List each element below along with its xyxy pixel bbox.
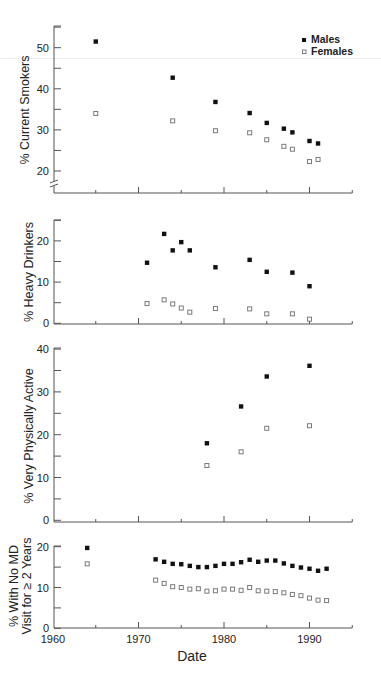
male-data-point	[290, 564, 294, 568]
y-axis-label: % Current Smokers	[18, 55, 32, 164]
female-data-point	[316, 598, 320, 602]
male-data-point	[196, 565, 200, 569]
male-data-point	[265, 558, 269, 562]
female-data-point	[179, 306, 183, 310]
female-data-point	[299, 594, 303, 598]
y-tick-label: 20	[37, 429, 49, 441]
male-data-point	[213, 564, 217, 568]
female-data-point	[325, 599, 329, 603]
male-data-point	[162, 560, 166, 564]
female-data-point	[213, 129, 217, 133]
male-data-point	[307, 139, 311, 143]
female-data-point	[282, 144, 286, 148]
female-data-point	[94, 111, 98, 115]
female-data-point	[171, 119, 175, 123]
legend-male-marker	[302, 38, 306, 42]
y-tick-label: 10	[37, 472, 49, 484]
y-axis-label-line1: % With No MD	[7, 545, 21, 627]
x-tick-label: 1960	[41, 633, 65, 645]
female-data-point	[171, 302, 175, 306]
female-data-point	[239, 588, 243, 592]
female-data-point	[265, 138, 269, 142]
male-data-point	[316, 569, 320, 573]
male-data-point	[230, 562, 234, 566]
male-data-point	[316, 141, 320, 145]
female-data-point	[154, 578, 158, 582]
female-data-point	[179, 586, 183, 590]
female-data-point	[256, 589, 260, 593]
female-data-point	[85, 562, 89, 566]
x-tick-label: 1980	[212, 633, 236, 645]
data-points	[85, 546, 329, 603]
male-data-point	[324, 567, 328, 571]
male-data-point	[239, 560, 243, 564]
female-data-point	[145, 302, 149, 306]
female-data-point	[290, 592, 294, 596]
male-data-point	[247, 111, 251, 115]
male-data-point	[256, 560, 260, 564]
male-data-point	[94, 39, 98, 43]
male-data-point	[265, 270, 269, 274]
male-data-point	[205, 441, 209, 445]
y-tick-label: 20	[37, 541, 49, 553]
male-data-point	[247, 558, 251, 562]
male-data-point	[307, 364, 311, 368]
legend: Males Females	[302, 33, 353, 57]
male-data-point	[153, 557, 157, 561]
male-data-point	[188, 248, 192, 252]
male-data-point	[85, 546, 89, 550]
female-data-point	[196, 587, 200, 591]
x-tick-label: 1990	[297, 633, 321, 645]
female-data-point	[162, 581, 166, 585]
female-data-point	[213, 589, 217, 593]
female-data-point	[205, 589, 209, 593]
legend-male-label: Males	[311, 33, 340, 45]
male-data-point	[282, 561, 286, 565]
male-data-point	[247, 258, 251, 262]
female-data-point	[171, 585, 175, 589]
axes: 010203040	[37, 343, 353, 526]
female-data-point	[162, 298, 166, 302]
panel-no-md-visit: % With No MD Visit for ≥ 2 Years 0102019…	[7, 538, 352, 664]
y-tick-label: 0	[43, 317, 49, 329]
figure: % Current Smokers 20304050 Males Females…	[0, 0, 381, 675]
y-tick-label: 20	[37, 235, 49, 247]
male-data-point	[205, 565, 209, 569]
male-data-point	[145, 261, 149, 265]
male-data-point	[179, 240, 183, 244]
male-data-point	[265, 374, 269, 378]
female-data-point	[265, 312, 269, 316]
male-data-point	[188, 564, 192, 568]
male-data-point	[171, 76, 175, 80]
y-tick-label: 10	[37, 582, 49, 594]
female-data-point	[188, 310, 192, 314]
female-data-point	[308, 424, 312, 428]
y-tick-label: 40	[37, 83, 49, 95]
female-data-point	[213, 306, 217, 310]
female-data-point	[188, 587, 192, 591]
female-data-point	[290, 312, 294, 316]
panel-very-physically-active: % Very Physically Active 010203040	[22, 343, 352, 526]
female-data-point	[316, 157, 320, 161]
data-points	[94, 39, 321, 163]
y-tick-label: 30	[37, 386, 49, 398]
male-data-point	[265, 121, 269, 125]
male-data-point	[282, 126, 286, 130]
y-axis-label-line2: Visit for ≥ 2 Years	[20, 538, 34, 635]
male-data-point	[222, 562, 226, 566]
legend-female-label: Females	[311, 45, 353, 57]
female-data-point	[248, 586, 252, 590]
male-data-point	[239, 404, 243, 408]
female-data-point	[308, 596, 312, 600]
female-data-point	[222, 587, 226, 591]
axes: 01020	[37, 220, 353, 329]
male-data-point	[290, 130, 294, 134]
male-data-point	[307, 567, 311, 571]
data-points	[205, 364, 312, 468]
female-data-point	[265, 426, 269, 430]
female-data-point	[231, 587, 235, 591]
male-data-point	[213, 100, 217, 104]
male-data-point	[171, 562, 175, 566]
x-axis-label: Date	[177, 648, 207, 664]
y-axis-label: % Heavy Drinkers	[22, 222, 36, 322]
